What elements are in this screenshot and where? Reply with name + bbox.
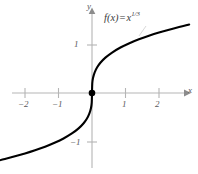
x-tick-label-2: 2 (155, 100, 160, 109)
label-leader-line (139, 26, 146, 36)
x-tick-label-minus2: −2 (18, 100, 29, 109)
function-name-text: f(x) (104, 12, 119, 23)
function-equation-label: f(x)=x1/3 (104, 11, 140, 23)
y-axis-name-label: y (87, 2, 91, 11)
x-tick-label-minus1: −1 (52, 100, 63, 109)
equals-sign: = (119, 12, 127, 23)
x-axis-name-label: x (188, 86, 192, 95)
y-tick-label-1: 1 (74, 40, 79, 49)
y-tick-label-minus1: −1 (70, 138, 81, 147)
origin-point-marker (89, 90, 96, 97)
x-axis (12, 90, 191, 97)
function-exponent-text: 1/3 (131, 10, 140, 17)
x-tick-label-1: 1 (122, 100, 127, 109)
figure-container: f(x)=x1/3 −2 −1 1 2 1 −1 x y (0, 0, 198, 174)
plot-canvas (0, 0, 198, 174)
